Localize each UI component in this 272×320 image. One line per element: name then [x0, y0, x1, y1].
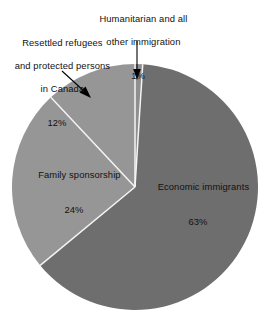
slice-label-economic: Economic immigrants 63%: [142, 170, 254, 250]
slice-label-economic-text: Economic immigrants: [158, 181, 250, 192]
slice-label-resettled-refugees-line1: Resettled refugees: [22, 37, 103, 48]
slice-value-resettled-refugees: 12%: [2, 117, 112, 128]
slice-label-family-sponsorship: Family sponsorship 24%: [22, 158, 126, 238]
slice-value-family-sponsorship: 24%: [22, 204, 126, 215]
slice-label-resettled-refugees-line3: in Canada: [41, 83, 85, 94]
slice-label-resettled-refugees: Resettled refugees and protected persons…: [2, 26, 112, 151]
slice-label-family-sponsorship-text: Family sponsorship: [38, 169, 121, 180]
slice-label-humanitarian-line1: Humanitarian and all: [99, 13, 187, 24]
slice-label-resettled-refugees-line2: and protected persons: [15, 60, 110, 71]
pie-chart: Humanitarian and all other immigration 1…: [0, 0, 272, 320]
slice-label-humanitarian-line2: other immigration: [106, 36, 180, 47]
slice-value-economic: 63%: [142, 216, 254, 227]
